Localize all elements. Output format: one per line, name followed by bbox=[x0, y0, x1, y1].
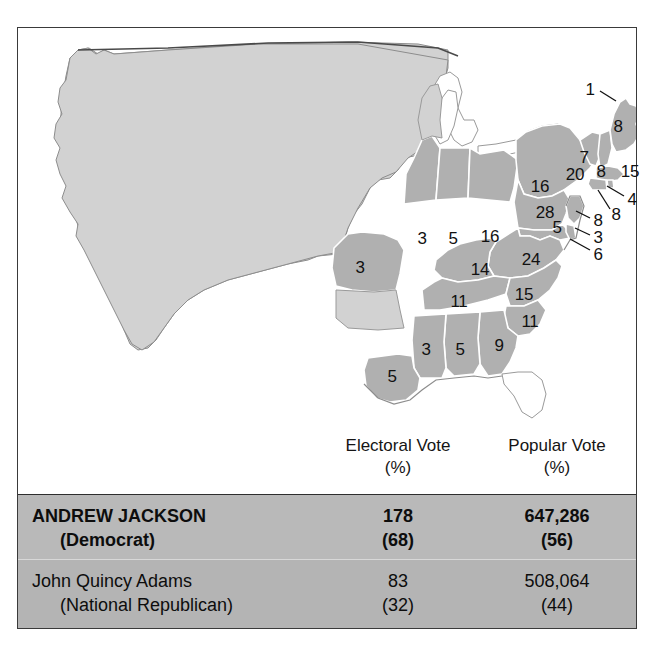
candidate-party: (National Republican) bbox=[32, 593, 318, 617]
results-table: Electoral Vote (%) Popular Vote (%) ANDR… bbox=[18, 426, 636, 628]
electoral-cell: 83 (32) bbox=[318, 569, 478, 617]
header-electoral-label: Electoral Vote bbox=[318, 435, 478, 457]
ev-label-vermont: 8 bbox=[596, 163, 605, 180]
candidate-party: (Democrat) bbox=[32, 528, 318, 552]
ev-label-new-hampshire: 7 bbox=[579, 149, 588, 166]
ev-label-maryland-adams: 6 bbox=[593, 246, 602, 263]
ev-label-illinois: 3 bbox=[417, 230, 426, 247]
candidate-cell: ANDREW JACKSON (Democrat) bbox=[18, 504, 318, 552]
state-missouri bbox=[332, 232, 404, 292]
ev-label-kentucky: 14 bbox=[471, 261, 489, 278]
electoral-percent: (32) bbox=[318, 593, 478, 617]
header-popular-label: Popular Vote bbox=[478, 435, 636, 457]
table-row: ANDREW JACKSON (Democrat) 178 (68) 647,2… bbox=[18, 494, 636, 560]
electoral-cell: 178 (68) bbox=[318, 504, 478, 552]
popular-votes: 508,064 bbox=[478, 569, 636, 593]
electoral-votes: 178 bbox=[318, 504, 478, 528]
ev-label-south-carolina: 11 bbox=[521, 313, 538, 330]
ev-label-maryland: 5 bbox=[552, 219, 561, 236]
ev-label-pennsylvania: 28 bbox=[536, 204, 554, 221]
ev-label-louisiana: 5 bbox=[387, 368, 396, 385]
candidate-name: John Quincy Adams bbox=[32, 569, 318, 593]
ev-label-new-york-adams: 16 bbox=[531, 178, 549, 195]
figure-frame: 1878152016482885361653314241115113595 El… bbox=[17, 27, 637, 629]
ev-label-maine: 8 bbox=[613, 118, 622, 135]
ev-label-new-york: 20 bbox=[566, 166, 584, 183]
electoral-percent: (68) bbox=[318, 528, 478, 552]
header-electoral-pct-label: (%) bbox=[318, 457, 478, 479]
state-indiana bbox=[436, 148, 470, 200]
ev-label-new-jersey: 8 bbox=[593, 212, 602, 229]
ev-label-maine-upper: 1 bbox=[585, 81, 594, 98]
table-row: John Quincy Adams (National Republican) … bbox=[18, 560, 636, 628]
candidate-cell: John Quincy Adams (National Republican) bbox=[18, 569, 318, 617]
table-header-row: Electoral Vote (%) Popular Vote (%) bbox=[18, 426, 636, 494]
us-map-svg bbox=[18, 28, 636, 428]
ev-label-georgia: 9 bbox=[494, 337, 503, 354]
popular-votes: 647,286 bbox=[478, 504, 636, 528]
us-election-map: 1878152016482885361653314241115113595 bbox=[18, 28, 636, 428]
ev-label-connecticut: 8 bbox=[611, 206, 620, 223]
header-popular-cell: Popular Vote (%) bbox=[478, 435, 636, 479]
header-electoral-cell: Electoral Vote (%) bbox=[318, 435, 478, 479]
ev-label-indiana: 5 bbox=[448, 230, 457, 247]
ev-label-tennessee: 11 bbox=[450, 293, 467, 310]
state-ohio bbox=[468, 148, 518, 202]
ev-label-missouri: 3 bbox=[355, 259, 364, 276]
popular-cell: 508,064 (44) bbox=[478, 569, 636, 617]
ev-label-alabama: 5 bbox=[455, 341, 464, 358]
ev-label-massachusetts: 15 bbox=[621, 163, 639, 180]
territory-arkansas bbox=[336, 290, 404, 330]
electoral-votes: 83 bbox=[318, 569, 478, 593]
ev-label-delaware: 3 bbox=[593, 229, 602, 246]
state-rhode-island bbox=[607, 180, 614, 188]
ev-label-ohio: 16 bbox=[481, 228, 499, 245]
popular-cell: 647,286 (56) bbox=[478, 504, 636, 552]
header-popular-pct-label: (%) bbox=[478, 457, 636, 479]
candidate-name: ANDREW JACKSON bbox=[32, 504, 318, 528]
territory-florida bbox=[502, 372, 546, 418]
ev-label-north-carolina: 15 bbox=[515, 286, 533, 303]
ev-label-virginia: 24 bbox=[522, 251, 540, 268]
ev-label-rhode-island: 4 bbox=[627, 191, 636, 208]
ev-label-mississippi: 3 bbox=[421, 341, 430, 358]
popular-percent: (56) bbox=[478, 528, 636, 552]
popular-percent: (44) bbox=[478, 593, 636, 617]
